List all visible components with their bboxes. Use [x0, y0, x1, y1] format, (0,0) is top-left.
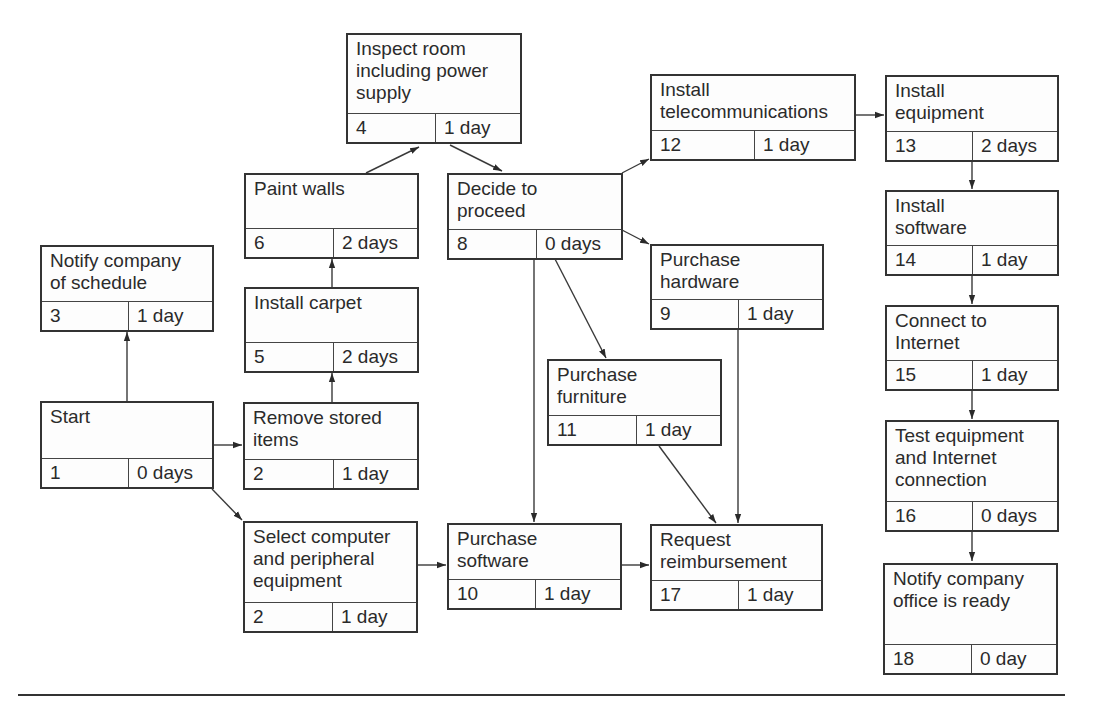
- node-footer: 12 1 day: [652, 130, 854, 159]
- node-divider: [972, 132, 973, 160]
- node-number: 18: [893, 648, 914, 670]
- node-footer: 14 1 day: [887, 245, 1057, 274]
- node-connect-to-internet: Connect to Internet 15 1 day: [885, 305, 1059, 391]
- node-title: Request reimbursement: [652, 526, 821, 573]
- node-start: Start 1 0 days: [40, 401, 214, 489]
- node-footer: 8 0 days: [449, 229, 621, 258]
- node-number: 14: [895, 249, 916, 271]
- node-number: 13: [895, 135, 916, 157]
- node-duration: 1 day: [341, 606, 387, 628]
- node-remove-stored-items: Remove stored items 2 1 day: [243, 402, 419, 490]
- node-title: Purchase software: [449, 525, 620, 572]
- node-duration: 1 day: [981, 364, 1027, 386]
- arrow-1-to-2b: [212, 489, 242, 520]
- node-divider: [971, 645, 972, 673]
- node-duration: 1 day: [763, 134, 809, 156]
- node-install-software: Install software 14 1 day: [885, 190, 1059, 276]
- arrow-6-to-4: [366, 147, 419, 173]
- node-divider: [435, 114, 436, 142]
- node-divider: [128, 459, 129, 487]
- node-footer: 1 0 days: [42, 458, 212, 487]
- node-notify-company-schedule: Notify company of schedule 3 1 day: [40, 245, 214, 332]
- node-title: Decide to proceed: [449, 175, 621, 222]
- node-title: Connect to Internet: [887, 307, 1057, 354]
- node-footer: 15 1 day: [887, 360, 1057, 389]
- node-paint-walls: Paint walls 6 2 days: [244, 173, 419, 259]
- node-footer: 10 1 day: [449, 579, 620, 608]
- node-number: 15: [895, 364, 916, 386]
- node-number: 11: [557, 419, 577, 441]
- node-footer: 2 1 day: [245, 459, 417, 488]
- node-footer: 16 0 days: [887, 501, 1057, 530]
- node-divider: [972, 246, 973, 274]
- node-number: 10: [457, 583, 478, 605]
- node-divider: [333, 343, 334, 371]
- node-install-carpet: Install carpet 5 2 days: [244, 287, 419, 373]
- node-purchase-software: Purchase software 10 1 day: [447, 523, 622, 610]
- node-duration: 1 day: [544, 583, 590, 605]
- node-number: 6: [254, 232, 265, 254]
- node-install-equipment: Install equipment 13 2 days: [885, 75, 1059, 162]
- node-title: Purchase furniture: [549, 361, 720, 408]
- node-duration: 1 day: [137, 305, 183, 327]
- node-title: Install equipment: [887, 77, 1057, 124]
- node-title: Test equipment and Internet connection: [887, 422, 1057, 491]
- bottom-divider-rule: [18, 694, 1065, 696]
- node-divider: [332, 603, 333, 631]
- arrow-4-to-8: [450, 145, 502, 171]
- node-duration: 2 days: [342, 346, 398, 368]
- node-number: 2: [253, 606, 264, 628]
- node-test-equipment-internet: Test equipment and Internet connection 1…: [885, 420, 1059, 532]
- node-notify-office-ready: Notify company office is ready 18 0 day: [883, 563, 1058, 675]
- node-duration: 2 days: [342, 232, 398, 254]
- arrow-8-to-11: [555, 259, 606, 358]
- node-duration: 1 day: [342, 463, 388, 485]
- node-number: 4: [356, 117, 367, 139]
- node-divider: [536, 230, 537, 258]
- node-footer: 2 1 day: [245, 602, 416, 631]
- node-purchase-hardware: Purchase hardware 9 1 day: [650, 244, 824, 330]
- node-title: Remove stored items: [245, 404, 417, 451]
- node-duration: 2 days: [981, 135, 1037, 157]
- node-footer: 6 2 days: [246, 228, 417, 257]
- node-inspect-room: Inspect room including power supply 4 1 …: [346, 33, 522, 144]
- arrow-8-to-12: [622, 159, 649, 173]
- node-decide-to-proceed: Decide to proceed 8 0 days: [447, 173, 623, 260]
- node-divider: [738, 581, 739, 609]
- node-install-telecommunications: Install telecommunications 12 1 day: [650, 74, 856, 161]
- node-divider: [754, 131, 755, 159]
- arrow-11-to-17: [659, 446, 716, 523]
- node-footer: 4 1 day: [348, 113, 520, 142]
- node-title: Install telecommunications: [652, 76, 854, 123]
- node-request-reimbursement: Request reimbursement 17 1 day: [650, 524, 823, 611]
- node-number: 12: [660, 134, 681, 156]
- node-footer: 5 2 days: [246, 342, 417, 371]
- node-duration: 1 day: [747, 303, 793, 325]
- node-divider: [636, 416, 637, 444]
- node-footer: 17 1 day: [652, 580, 821, 609]
- node-select-computer-equipment: Select computer and peripheral equipment…: [243, 521, 418, 633]
- node-divider: [738, 300, 739, 328]
- node-title: Purchase hardware: [652, 246, 822, 293]
- node-divider: [972, 361, 973, 389]
- node-number: 16: [895, 505, 916, 527]
- node-duration: 0 days: [545, 233, 601, 255]
- node-footer: 9 1 day: [652, 299, 822, 328]
- node-title: Notify company of schedule: [42, 247, 212, 294]
- node-duration: 1 day: [444, 117, 490, 139]
- node-title: Install software: [887, 192, 1057, 239]
- node-title: Inspect room including power supply: [348, 35, 520, 104]
- node-title: Notify company office is ready: [885, 565, 1056, 612]
- node-number: 3: [50, 305, 61, 327]
- node-purchase-furniture: Purchase furniture 11 1 day: [547, 359, 722, 446]
- node-title: Install carpet: [246, 289, 417, 314]
- network-diagram: Notify company of schedule 3 1 day Start…: [0, 0, 1101, 711]
- node-number: 8: [457, 233, 468, 255]
- node-duration: 0 day: [980, 648, 1026, 670]
- node-title: Paint walls: [246, 175, 417, 200]
- arrow-8-to-9: [622, 230, 649, 244]
- node-footer: 18 0 day: [885, 644, 1056, 673]
- node-divider: [128, 302, 129, 330]
- node-title: Start: [42, 403, 212, 428]
- node-divider: [972, 502, 973, 530]
